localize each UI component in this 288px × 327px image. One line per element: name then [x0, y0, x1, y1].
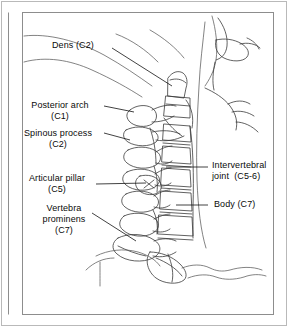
posterior-elements — [113, 128, 176, 261]
label-spinous-process-line2: (C2) — [10, 139, 106, 150]
label-dens: Dens (C2) — [52, 40, 94, 51]
vertebral-bodies — [158, 124, 193, 240]
leader-dens — [112, 48, 172, 86]
label-body-c7: Body (C7) — [214, 199, 255, 210]
label-articular-pillar-line2: (C5) — [14, 184, 100, 195]
leader-posterior-arch — [104, 106, 134, 112]
label-vertebra-prominens-line1: Vertebra — [26, 203, 102, 214]
label-intervertebral-joint-line2: joint (C5-6) — [212, 171, 260, 182]
leader-spinous-process — [104, 133, 130, 140]
label-articular-pillar-line1: Articular pillar — [14, 173, 100, 184]
label-spinous-process-line1: Spinous process — [10, 128, 106, 139]
c1-c2-vertebrae — [124, 72, 193, 146]
label-intervertebral-joint-line1: Intervertebral — [212, 160, 266, 171]
label-posterior-arch-line2: (C1) — [14, 111, 106, 122]
leader-articular-pillar — [96, 183, 146, 184]
skull-base-outlines — [205, 18, 260, 132]
lower-neck-shoulder — [86, 250, 266, 286]
leader-lines — [92, 48, 208, 241]
label-posterior-arch-line1: Posterior arch — [14, 100, 106, 111]
cervical-spine-figure: Dens (C2) Posterior arch (C1) Spinous pr… — [0, 0, 288, 327]
label-vertebra-prominens-line2: prominens — [26, 214, 102, 225]
label-vertebra-prominens-line3: (C7) — [26, 225, 102, 236]
